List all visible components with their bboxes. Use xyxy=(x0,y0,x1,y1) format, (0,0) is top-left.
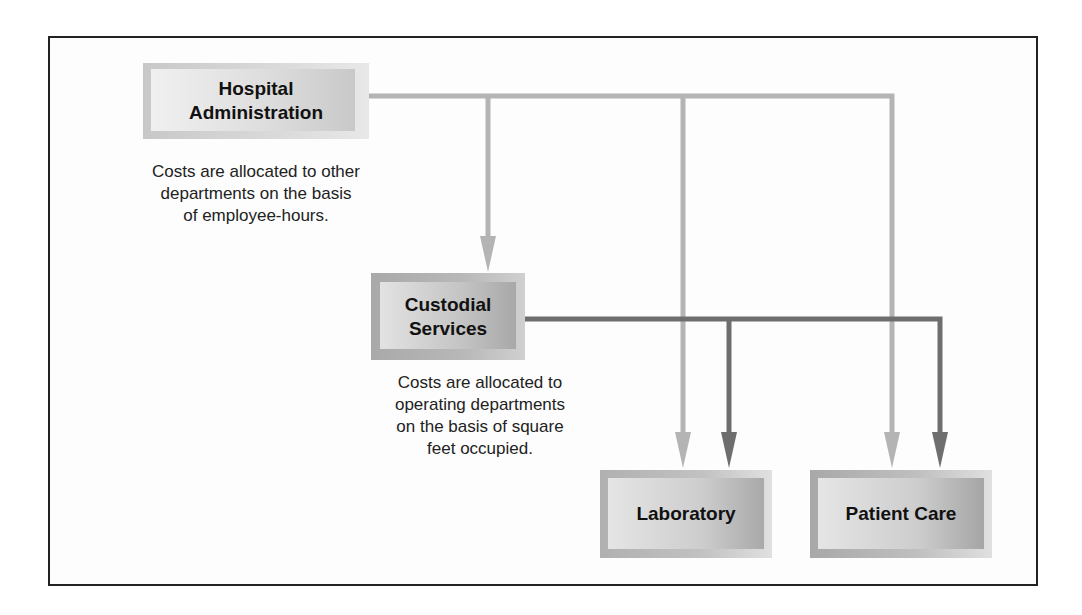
node-label-line2: Administration xyxy=(189,102,323,123)
node-hospital-administration: Hospital Administration xyxy=(143,63,369,139)
note-line: Costs are allocated to other xyxy=(88,161,424,183)
custodial-allocation-note: Costs are allocated to operating departm… xyxy=(362,372,598,460)
arrowhead-icon xyxy=(675,432,691,468)
node-label-line1: Hospital xyxy=(219,78,294,99)
arrowhead-icon xyxy=(932,432,948,468)
arrowhead-icon xyxy=(884,432,900,468)
custodial-arrowheads xyxy=(721,432,948,468)
note-line: departments on the basis xyxy=(88,183,424,205)
admin-allocation-note: Costs are allocated to other departments… xyxy=(88,161,424,227)
node-laboratory: Laboratory xyxy=(600,470,772,558)
node-label: Patient Care xyxy=(846,502,957,526)
note-line: on the basis of square xyxy=(362,416,598,438)
note-line: Costs are allocated to xyxy=(362,372,598,394)
note-line: operating departments xyxy=(362,394,598,416)
node-patient-care: Patient Care xyxy=(810,470,992,558)
node-label: Laboratory xyxy=(636,502,735,526)
arrowhead-icon xyxy=(721,432,737,468)
note-line: of employee-hours. xyxy=(88,205,424,227)
node-label-line1: Custodial xyxy=(405,294,492,315)
node-label-line2: Services xyxy=(409,318,487,339)
node-custodial-services: Custodial Services xyxy=(371,273,525,360)
arrowhead-icon xyxy=(480,236,496,272)
note-line: feet occupied. xyxy=(362,438,598,460)
